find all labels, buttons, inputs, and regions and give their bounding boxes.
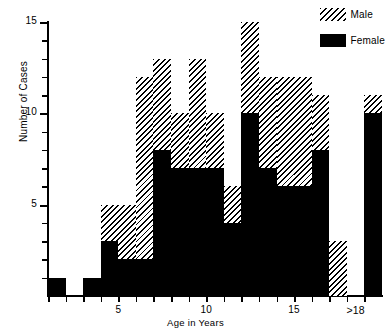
bar-segment-male [277,77,295,187]
x-tick-16 [312,297,314,302]
bar-age-1 [48,278,66,296]
bar-segment-female [171,168,189,296]
y-axis-title: Number of Cases [18,27,29,177]
legend-swatch-male-hatch-icon [320,8,346,21]
bar-segment-male [206,113,224,168]
x-tick-18 [347,297,349,302]
bar-segment-male [153,59,171,150]
bar-segment-male [329,241,347,296]
bar-age-4 [101,205,119,296]
bar-segment-male [189,59,207,169]
bar-segment-male [312,95,330,150]
x-tick-7 [153,297,155,302]
x-tick-6 [136,297,138,302]
x-tick-3 [83,297,85,302]
bar-age-10 [206,113,224,296]
x-tick-17 [329,297,331,302]
x-tick-4 [101,297,103,302]
bar-segment-male [364,95,382,113]
bar-segment-female [294,186,312,296]
bar-segment-female [364,113,382,296]
y-tick-7 [42,168,47,170]
y-tick-8 [42,150,47,152]
x-tick-11 [224,297,226,302]
bar-segment-female [224,223,242,296]
bar-segment-female [48,278,66,296]
bar-segment-male [259,77,277,168]
bar-segment-male [118,205,136,260]
x-tick-label-15: 15 [279,304,309,315]
x-tick-8 [171,297,173,302]
bar-segment-female [101,241,119,296]
x-tick-15 [294,297,296,302]
x-tick-19 [364,297,366,302]
x-tick-label-5: 5 [103,304,133,315]
y-tick-10 [40,113,47,115]
bar-age->18 [364,95,382,296]
y-tick-9 [42,132,47,134]
bar-age-11 [224,186,242,296]
bar-segment-female [118,259,136,296]
bar-segment-female [153,150,171,296]
bar-segment-male [171,113,189,168]
bar-age-6 [136,77,154,296]
x-tick-12 [241,297,243,302]
bar-segment-female [83,278,101,296]
y-tick-11 [42,95,47,97]
x-tick-label->18: >18 [336,304,376,316]
bar-segment-female [241,113,259,296]
bar-age-14 [277,77,295,296]
y-tick-label-5: 5 [11,198,37,209]
y-tick-label-10: 10 [11,106,37,117]
bar-segment-female [189,168,207,296]
y-tick-13 [42,59,47,61]
bar-age-7 [153,59,171,296]
x-tick-label-10: 10 [191,304,221,315]
y-tick-4 [42,223,47,225]
x-tick-2 [66,297,68,302]
bar-segment-female [136,259,154,296]
y-tick-12 [42,77,47,79]
chart-figure: Male Female Number of Cases Age in Years… [0,0,391,336]
bar-segment-female [312,150,330,296]
x-tick-10 [206,297,208,302]
bar-age-15 [294,77,312,296]
bar-age-5 [118,205,136,296]
plot-area [48,22,382,296]
y-tick-14 [42,40,47,42]
y-tick-2 [42,259,47,261]
legend-item-male: Male [320,6,385,23]
y-tick-1 [42,278,47,280]
x-tick-5 [118,297,120,302]
x-tick-14 [277,297,279,302]
bar-segment-male [224,186,242,223]
bar-segment-male [241,22,259,113]
bar-segment-male [136,77,154,260]
y-tick-label-15: 15 [11,15,37,26]
bar-age-17 [329,241,347,296]
x-tick-1 [48,297,50,302]
bar-age-8 [171,113,189,296]
y-tick-6 [42,186,47,188]
bar-age-3 [83,278,101,296]
bar-segment-female [259,168,277,296]
bar-segment-male [101,205,119,242]
x-axis-title: Age in Years [0,317,391,328]
bar-age-9 [189,59,207,296]
x-tick-9 [189,297,191,302]
legend-label-male: Male [350,10,372,20]
bar-segment-female [277,186,295,296]
y-tick-3 [42,241,47,243]
bar-age-13 [259,77,277,296]
bar-series-container [48,22,382,296]
x-tick-13 [259,297,261,302]
bar-age-16 [312,95,330,296]
bar-segment-male [294,77,312,187]
bar-age-12 [241,22,259,296]
y-tick-15 [40,22,47,24]
bar-segment-female [206,168,224,296]
y-tick-5 [40,205,47,207]
